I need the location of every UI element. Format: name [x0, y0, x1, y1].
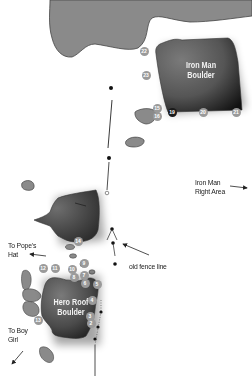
problem-marker[interactable]: 22: [140, 47, 149, 56]
small-rock: [125, 137, 144, 147]
arrow-boy-girl: [12, 351, 23, 364]
small-rock: [39, 347, 53, 363]
fence-line: [107, 227, 149, 266]
iron-man-right-area-label: Iron Man Right Area: [195, 178, 225, 196]
small-rock: [89, 270, 95, 274]
label-line: To Boy: [8, 326, 28, 335]
small-rock: [66, 245, 75, 250]
label-line: Girl: [8, 335, 28, 344]
boulder-name-line1: Iron Man: [180, 60, 223, 70]
problem-marker[interactable]: 14: [74, 237, 83, 246]
problem-marker[interactable]: 5: [93, 280, 102, 289]
problem-marker[interactable]: 21: [232, 108, 241, 117]
boulder-name-line1: Hero Roof: [50, 297, 93, 307]
small-rock: [23, 301, 39, 316]
problem-marker[interactable]: 13: [34, 316, 43, 325]
problem-marker[interactable]: 4: [88, 296, 97, 305]
problem-marker[interactable]: 2: [87, 319, 96, 328]
small-rock: [22, 181, 34, 191]
popes-hat-label: To Pope's Hat: [8, 241, 36, 259]
small-rock: [23, 289, 41, 302]
label-line: old fence line: [129, 262, 167, 271]
problem-marker[interactable]: 23: [142, 71, 151, 80]
label-line: To Pope's: [8, 241, 36, 250]
arrow-iron-man-right: [230, 186, 247, 188]
boulder-name-line2: Boulder: [180, 70, 223, 80]
label-line: Right Area: [195, 187, 225, 196]
middle-boulder: [34, 190, 99, 242]
problem-marker[interactable]: 16: [153, 112, 162, 121]
label-line: Hat: [8, 250, 36, 259]
problem-marker[interactable]: 6: [81, 279, 90, 288]
iron-man-boulder-label: Iron Man Boulder: [180, 60, 223, 80]
problem-marker[interactable]: 9: [80, 259, 89, 268]
trail-line: [105, 86, 113, 195]
problem-marker[interactable]: 20: [199, 108, 208, 117]
problem-marker[interactable]: 19: [168, 108, 177, 117]
problem-marker[interactable]: 8: [70, 273, 79, 282]
label-line: Iron Man: [195, 178, 225, 187]
boy-girl-label: To Boy Girl: [8, 326, 28, 344]
small-rock: [22, 270, 32, 290]
small-rock: [70, 254, 77, 258]
fence-line-label: old fence line: [129, 262, 167, 271]
problem-marker[interactable]: 11: [51, 264, 60, 273]
problem-marker[interactable]: 12: [39, 264, 48, 273]
